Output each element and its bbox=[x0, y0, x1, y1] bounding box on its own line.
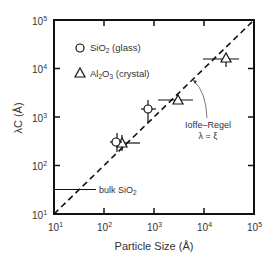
svg-text:105: 105 bbox=[32, 15, 47, 27]
x-tick-labels: 101 102 103 104 105 bbox=[48, 221, 262, 233]
series-sio2 bbox=[110, 100, 156, 152]
svg-text:105: 105 bbox=[247, 221, 262, 233]
y-tick-labels: 101 102 103 104 105 bbox=[32, 15, 47, 221]
svg-text:102: 102 bbox=[32, 160, 47, 172]
ioffe-regel-equation: λ = ξ bbox=[199, 131, 218, 141]
svg-text:101: 101 bbox=[32, 209, 47, 221]
svg-text:104: 104 bbox=[32, 63, 47, 75]
legend-sio2-label: SiO2 (glass) bbox=[90, 42, 141, 54]
data-point bbox=[141, 100, 156, 123]
svg-text:103: 103 bbox=[32, 112, 47, 124]
data-point bbox=[158, 95, 193, 104]
y-ticks bbox=[54, 69, 254, 166]
x-axis-title: Particle Size (Å) bbox=[115, 240, 194, 252]
svg-text:102: 102 bbox=[97, 221, 112, 233]
y-axis-title: λC (Å) bbox=[12, 102, 24, 133]
legend-circle-icon bbox=[76, 44, 84, 52]
legend-triangle-icon bbox=[75, 68, 85, 77]
bulk-sio2-label: bulk SiO2 bbox=[99, 185, 137, 196]
ioffe-regel-label: Ioffe–Regel bbox=[185, 120, 231, 130]
svg-text:103: 103 bbox=[147, 221, 162, 233]
legend: SiO2 (glass) Al2O3 (crystal) bbox=[75, 42, 150, 80]
svg-text:104: 104 bbox=[197, 221, 212, 233]
ioffe-regel-arrow bbox=[194, 81, 207, 118]
legend-al2o3-label: Al2O3 (crystal) bbox=[90, 68, 150, 80]
chart: 101 102 103 104 105 101 102 103 104 105 … bbox=[0, 0, 274, 260]
svg-text:101: 101 bbox=[48, 221, 63, 233]
